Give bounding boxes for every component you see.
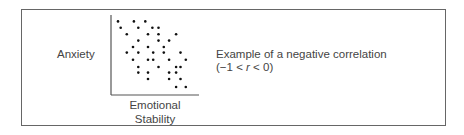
- data-point: [137, 51, 140, 54]
- data-point: [157, 39, 160, 42]
- data-point: [137, 39, 140, 42]
- data-point: [147, 71, 150, 74]
- data-point: [137, 66, 140, 69]
- data-point: [179, 51, 182, 54]
- data-point: [175, 33, 178, 36]
- data-point: [137, 71, 140, 74]
- data-point: [163, 51, 166, 54]
- data-point: [163, 46, 166, 49]
- data-point: [175, 66, 178, 69]
- data-point: [132, 59, 135, 62]
- data-point: [137, 27, 140, 30]
- data-point: [168, 78, 171, 81]
- data-point: [157, 33, 160, 36]
- data-point: [168, 39, 171, 42]
- y-axis-label: Anxiety: [57, 48, 95, 60]
- data-point: [157, 27, 160, 30]
- data-point: [117, 20, 120, 23]
- data-point: [175, 71, 178, 74]
- data-point: [147, 78, 150, 81]
- data-point: [144, 20, 147, 23]
- data-point: [152, 51, 155, 54]
- caption-line1: Example of a negative correlation: [216, 48, 387, 61]
- data-point: [185, 59, 188, 62]
- correlation-caption: Example of a negative correlation (−1 < …: [216, 48, 387, 74]
- caption-line2: (−1 < r < 0): [216, 61, 387, 74]
- data-point: [179, 66, 182, 69]
- data-point: [126, 33, 129, 36]
- data-point: [175, 86, 178, 89]
- data-point: [168, 71, 171, 74]
- x-axis-label: Emotional Stability: [111, 98, 199, 126]
- data-point: [147, 46, 150, 49]
- data-point: [119, 27, 122, 30]
- data-point: [132, 46, 135, 49]
- data-point: [147, 33, 150, 36]
- data-point: [168, 59, 171, 62]
- data-points: [117, 20, 187, 88]
- data-point: [157, 66, 160, 69]
- data-point: [185, 86, 188, 89]
- x-axis-label-line2: Stability: [111, 112, 199, 126]
- x-axis-label-line1: Emotional: [111, 98, 199, 112]
- data-point: [179, 78, 182, 81]
- data-point: [151, 27, 154, 30]
- data-point: [133, 20, 136, 23]
- data-point: [126, 51, 129, 54]
- data-point: [152, 59, 155, 62]
- data-point: [147, 59, 150, 62]
